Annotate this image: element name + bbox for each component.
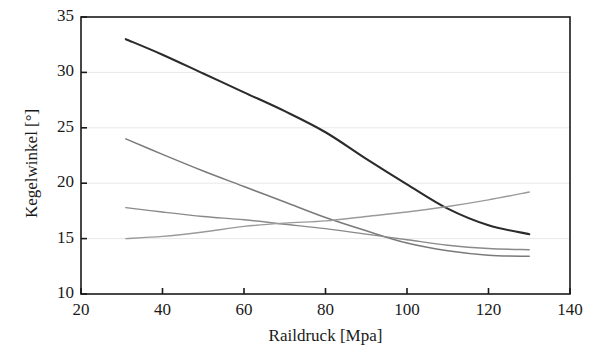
gridlines-group bbox=[81, 72, 570, 238]
xtick-label: 60 bbox=[236, 300, 253, 320]
x-axis-label: Raildruck [Mpa] bbox=[269, 326, 383, 346]
series-line-1 bbox=[126, 39, 529, 234]
ytick-label: 10 bbox=[57, 283, 74, 303]
chart-figure: 101520253035 20406080100120140 Kegelwink… bbox=[0, 0, 608, 361]
y-axis-label: Kegelwinkel [°] bbox=[22, 108, 42, 217]
xtick-label: 80 bbox=[317, 300, 334, 320]
ytick-label: 30 bbox=[57, 61, 74, 81]
plot-frame bbox=[81, 17, 570, 294]
ticks-group bbox=[81, 17, 570, 294]
ytick-label: 25 bbox=[57, 117, 74, 137]
chart-canvas bbox=[0, 0, 608, 361]
ytick-label: 35 bbox=[57, 6, 74, 26]
xtick-label: 20 bbox=[73, 300, 90, 320]
series-line-3 bbox=[126, 208, 529, 250]
xtick-label: 120 bbox=[476, 300, 502, 320]
xtick-label: 140 bbox=[557, 300, 583, 320]
series-group bbox=[126, 39, 529, 256]
ytick-label: 15 bbox=[57, 228, 74, 248]
xtick-label: 100 bbox=[394, 300, 420, 320]
ytick-label: 20 bbox=[57, 172, 74, 192]
xtick-label: 40 bbox=[154, 300, 171, 320]
